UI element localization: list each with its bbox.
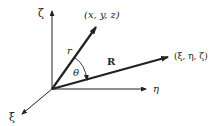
xi-axis	[22, 89, 52, 114]
xi-label: ξ	[9, 111, 15, 124]
zeta-label: ζ	[38, 7, 44, 20]
r-label: r	[67, 45, 73, 56]
eta-label: η	[153, 83, 159, 94]
source-point-label: (ξ, η, ζ)	[174, 51, 208, 61]
field-point-label: (x, y, z)	[84, 9, 120, 20]
coordinate-diagram: ζ η ξ r R θ (x, y, z) (ξ, η, ζ)	[0, 0, 220, 126]
R-label: R	[107, 56, 116, 67]
theta-label: θ	[73, 67, 79, 78]
